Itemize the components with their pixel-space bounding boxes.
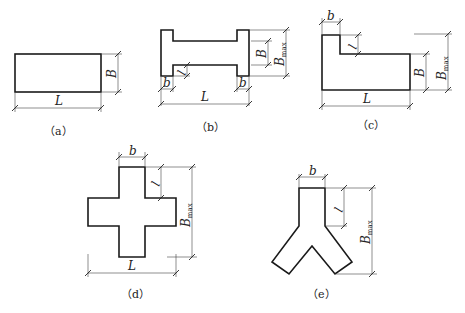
flange-label-b-right: b [239,76,247,90]
i-shape [161,30,249,76]
length-label-L: L [127,259,136,273]
width-label-B: B [413,68,427,78]
figure-b: Bmax B l b b L （b） [158,27,290,134]
figure-c: b l B Bmax L （c） [319,9,452,132]
flange-label-b: b [327,9,335,23]
width-label-B: B [255,49,269,59]
caption-e: （e） [307,288,336,301]
max-width-label: Bmax [435,56,450,81]
flange-label-b: b [309,164,317,178]
rectangle-shape [15,54,101,92]
l-shape [322,35,410,90]
flange-label-b-left: b [163,76,171,90]
figure-d: b l Bmax L （d） [85,144,197,301]
plan-shapes-diagram: B L （a） Bmax B l [0,0,465,313]
figure-e: b l Bmax （e） [272,164,377,301]
max-width-label: Bmax [359,220,374,245]
length-label-L: L [362,92,371,106]
width-label-B: B [105,69,119,79]
y-shape [272,188,352,274]
caption-d: （d） [121,288,150,301]
length-label-L: L [54,94,63,108]
cross-shape [88,167,176,257]
caption-b: （b） [196,121,225,134]
max-width-label: Bmax [179,203,194,228]
length-label-L: L [200,90,209,104]
caption-a: （a） [44,125,73,138]
caption-c: （c） [357,119,385,132]
flange-label-b: b [129,144,137,158]
figure-a: B L （a） [12,51,122,138]
max-width-label: Bmax [273,42,288,67]
